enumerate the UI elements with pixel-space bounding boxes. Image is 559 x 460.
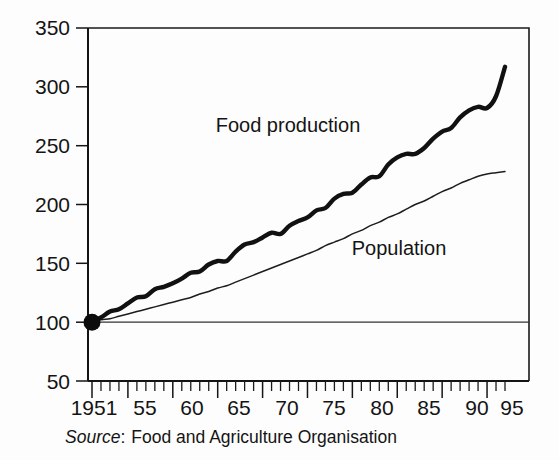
y-tick-label-100: 100	[35, 311, 70, 334]
food-production-label: Food production	[216, 114, 361, 136]
line-chart: 350 300 250 200 150 100 50 1951 55 60 65…	[0, 0, 559, 460]
y-tick-label-50: 50	[47, 370, 70, 393]
source-separator: :	[120, 427, 125, 447]
population-label: Population	[352, 237, 447, 259]
x-tick-label-1975: 75	[322, 396, 345, 419]
y-tick-label-150: 150	[35, 252, 70, 275]
x-tick-label-1965: 65	[227, 396, 250, 419]
x-tick-label-1990: 90	[465, 396, 488, 419]
x-tick-label-1985: 85	[417, 396, 440, 419]
x-tick-label-1980: 80	[370, 396, 393, 419]
x-tick-label-1995: 95	[500, 396, 523, 419]
x-tick-label-1955: 55	[133, 396, 156, 419]
chart-container: 350 300 250 200 150 100 50 1951 55 60 65…	[0, 0, 559, 460]
x-tick-label-1970: 70	[275, 396, 298, 419]
y-axis-labels: 350 300 250 200 150 100 50	[35, 16, 70, 393]
y-tick-label-350: 350	[35, 16, 70, 39]
source-prefix: Source	[65, 427, 121, 447]
y-tick-label-300: 300	[35, 75, 70, 98]
y-tick-label-250: 250	[35, 134, 70, 157]
x-tick-label-1951: 1951	[71, 396, 118, 419]
x-tick-label-1960: 60	[180, 396, 203, 419]
plot-frame	[88, 28, 529, 381]
x-axis-labels: 1951 55 60 65 70 75 80 85 90 95	[71, 396, 524, 419]
source-text: Food and Agriculture Organisation	[131, 427, 397, 447]
source-note: Source:Food and Agriculture Organisation	[65, 427, 397, 447]
origin-marker-dot	[84, 314, 101, 331]
y-tick-label-200: 200	[35, 193, 70, 216]
food-production-line	[92, 67, 505, 322]
